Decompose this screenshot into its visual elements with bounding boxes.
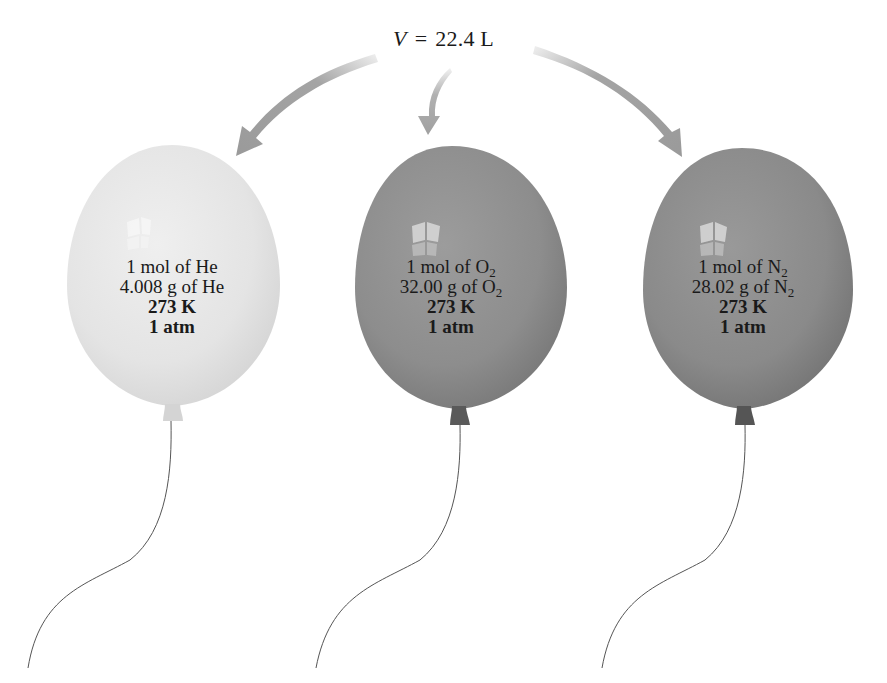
mass-text: 4.008 g of bbox=[120, 276, 202, 297]
pressure: 1 atm bbox=[341, 317, 561, 337]
temperature: 273 K bbox=[62, 297, 282, 317]
moles-line: 1 mol of N2 bbox=[633, 257, 853, 277]
helium-balloon-label: 1 mol of He 4.008 g of He 273 K 1 atm bbox=[62, 257, 282, 337]
diagram-graphics bbox=[0, 0, 887, 683]
equals-sign: = bbox=[407, 26, 436, 51]
nitrogen-balloon-label: 1 mol of N2 28.02 g of N2 273 K 1 atm bbox=[633, 257, 853, 337]
temperature: 273 K bbox=[341, 297, 561, 317]
balloon-string bbox=[28, 421, 171, 668]
volume-label: V=22.4 L bbox=[0, 27, 887, 51]
formula: He bbox=[202, 276, 224, 297]
formula: O bbox=[482, 276, 496, 297]
curved-arrow-down-icon bbox=[418, 68, 452, 135]
moles-line: 1 mol of He bbox=[62, 257, 282, 277]
volume-symbol: V bbox=[393, 26, 407, 51]
subscript: 2 bbox=[788, 285, 795, 300]
window-reflection-icon bbox=[127, 217, 151, 250]
moles-text: 1 mol of bbox=[698, 256, 767, 277]
balloon-string bbox=[316, 425, 460, 668]
mass-line: 4.008 g of He bbox=[62, 277, 282, 297]
temperature: 273 K bbox=[633, 297, 853, 317]
balloon-knot bbox=[450, 406, 470, 425]
oxygen-balloon bbox=[316, 146, 567, 668]
moles-text: 1 mol of bbox=[126, 256, 195, 277]
gas-volume-diagram: V=22.4 L 1 mol of He 4.008 g of He 273 K… bbox=[0, 0, 887, 683]
formula: N bbox=[774, 276, 788, 297]
balloon-knot bbox=[735, 406, 755, 425]
balloon-knot bbox=[163, 404, 183, 421]
curved-arrow-right-icon bbox=[533, 46, 682, 157]
subscript: 2 bbox=[496, 285, 503, 300]
formula: N bbox=[767, 256, 781, 277]
helium-balloon bbox=[28, 145, 280, 668]
volume-value: 22.4 L bbox=[435, 26, 494, 51]
oxygen-balloon-label: 1 mol of O2 32.00 g of O2 273 K 1 atm bbox=[341, 257, 561, 337]
pressure: 1 atm bbox=[633, 317, 853, 337]
mass-text: 28.02 g of bbox=[692, 276, 774, 297]
formula: He bbox=[195, 256, 217, 277]
mass-line: 32.00 g of O2 bbox=[341, 277, 561, 297]
curved-arrow-left-icon bbox=[236, 54, 378, 156]
formula: O bbox=[475, 256, 489, 277]
nitrogen-balloon bbox=[602, 148, 853, 668]
balloon-string bbox=[602, 425, 745, 668]
pressure: 1 atm bbox=[62, 317, 282, 337]
mass-line: 28.02 g of N2 bbox=[633, 277, 853, 297]
moles-text: 1 mol of bbox=[406, 256, 475, 277]
moles-line: 1 mol of O2 bbox=[341, 257, 561, 277]
mass-text: 32.00 g of bbox=[400, 276, 482, 297]
